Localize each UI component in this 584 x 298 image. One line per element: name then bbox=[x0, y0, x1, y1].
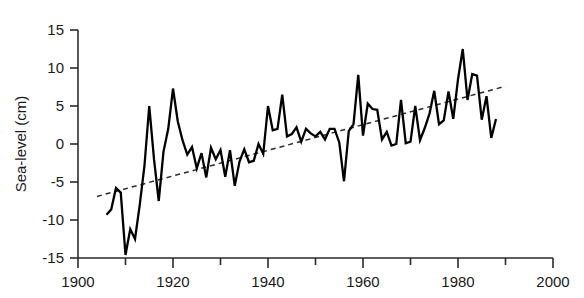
y-tick-label: 0 bbox=[56, 135, 64, 152]
x-tick-label: 1920 bbox=[156, 273, 189, 290]
y-tick-label: -5 bbox=[51, 173, 64, 190]
y-tick-label: 15 bbox=[47, 21, 64, 38]
y-tick-label: -15 bbox=[42, 249, 64, 266]
chart-canvas: 15 10 5 0 -5 -10 -15 1900 1 bbox=[0, 0, 584, 298]
x-tick-label: 2000 bbox=[536, 273, 569, 290]
x-tick-label: 1940 bbox=[251, 273, 284, 290]
y-axis-title: Sea-level (cm) bbox=[12, 96, 29, 193]
x-tick-label: 1960 bbox=[346, 273, 379, 290]
sea-level-series bbox=[107, 49, 497, 255]
x-axis-tick-labels: 1900 1920 1940 1960 1980 2000 bbox=[61, 273, 569, 290]
x-tick-label: 1900 bbox=[61, 273, 94, 290]
y-axis-ticks bbox=[70, 30, 78, 258]
y-tick-label: 10 bbox=[47, 59, 64, 76]
y-tick-label: -10 bbox=[42, 211, 64, 228]
x-tick-label: 1980 bbox=[441, 273, 474, 290]
y-axis-tick-labels: 15 10 5 0 -5 -10 -15 bbox=[42, 21, 64, 266]
y-tick-label: 5 bbox=[56, 97, 64, 114]
sea-level-chart-figure: 15 10 5 0 -5 -10 -15 1900 1 bbox=[0, 0, 584, 298]
x-axis-minor-ticks bbox=[126, 258, 506, 265]
